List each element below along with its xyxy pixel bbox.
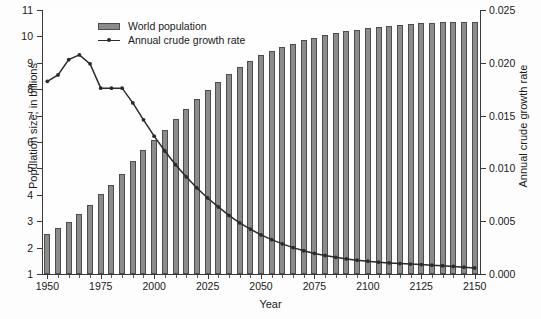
bar-2050 [258,55,264,274]
y-tick-right [481,274,486,275]
x-tick-minor [346,275,347,278]
y-tick-label-right: 0.010 [489,163,515,173]
x-tick-label: 2075 [294,281,334,292]
bar-swatch-icon [98,23,120,30]
growth-rate-point-1950 [45,79,49,83]
bar-1995 [140,150,146,274]
bar-1970 [87,205,93,274]
bar-2060 [279,47,285,274]
bar-2100 [365,28,371,274]
bar-2085 [333,33,339,274]
x-tick-minor [229,275,230,278]
bar-2125 [418,23,424,274]
x-tick-minor [122,275,123,278]
bar-2015 [183,109,189,274]
x-tick-major [47,275,48,279]
y-tick-label-right: 0.025 [489,5,515,15]
bar-2070 [301,40,307,274]
chart-figure: 1234567891011 0.0000.0050.0100.0150.0200… [0,0,541,319]
y-tick-right [481,63,486,64]
bar-2065 [290,44,296,274]
y-tick-label-right: 0.005 [489,216,515,226]
line-marker-icon [98,36,120,45]
bar-2130 [429,23,435,274]
bar-1985 [119,174,125,274]
x-tick-label: 2150 [455,281,495,292]
y-tick-right [481,116,486,117]
y-tick-label-right: 0.020 [489,58,515,68]
bar-2140 [450,22,456,274]
growth-rate-point-1990 [131,101,135,105]
x-tick-major [154,275,155,279]
x-tick-label: 2125 [401,281,441,292]
growth-rate-point-1980 [110,86,114,90]
x-tick-label: 1975 [81,281,121,292]
x-tick-minor [240,275,241,278]
bar-2040 [237,67,243,274]
x-tick-label: 2025 [188,281,228,292]
y-tick-right [481,10,486,11]
x-tick-minor [69,275,70,278]
y-tick-left [37,274,42,275]
y-tick-label-right: 0.015 [489,111,515,121]
bar-2020 [194,99,200,274]
x-tick-minor [443,275,444,278]
bar-2010 [173,119,179,274]
x-tick-minor [282,275,283,278]
bar-2120 [408,24,414,274]
x-tick-major [475,275,476,279]
x-tick-minor [218,275,219,278]
bar-2135 [440,22,446,274]
x-tick-minor [432,275,433,278]
y-tick-label-left: 11 [0,5,33,15]
growth-rate-point-1975 [99,86,103,90]
x-tick-minor [325,275,326,278]
bar-2150 [472,22,478,274]
bar-2025 [205,90,211,274]
x-tick-minor [165,275,166,278]
x-axis-title: Year [0,298,541,310]
y-axis-right-line [480,10,481,275]
bar-2045 [247,61,253,274]
x-tick-minor [143,275,144,278]
y-tick-label-right: 0.000 [489,269,515,279]
growth-rate-point-1960 [67,58,71,62]
x-tick-minor [379,275,380,278]
x-tick-minor [90,275,91,278]
x-tick-minor [304,275,305,278]
bar-2000 [151,140,157,274]
growth-rate-point-1985 [120,86,124,90]
legend-label: World population [128,19,207,33]
legend-item-annual-crude-growth-rate: Annual crude growth rate [98,33,245,47]
x-tick-label: 2100 [348,281,388,292]
legend-item-world-population: World population [98,19,245,33]
x-tick-minor [197,275,198,278]
x-tick-minor [453,275,454,278]
x-tick-minor [58,275,59,278]
bar-2110 [386,26,392,274]
bar-2095 [354,30,360,274]
x-tick-major [101,275,102,279]
y-tick-right [481,168,486,169]
y-axis-right-title: Annual crude growth rate [517,31,529,221]
bar-1960 [66,222,72,274]
x-tick-minor [111,275,112,278]
x-tick-label: 2050 [241,281,281,292]
bar-2055 [269,51,275,274]
bar-1950 [44,234,50,274]
bar-1955 [55,228,61,274]
bar-2090 [343,31,349,274]
bar-1965 [76,214,82,274]
bar-2035 [226,74,232,274]
x-tick-minor [464,275,465,278]
growth-rate-point-1995 [142,118,146,122]
growth-rate-point-2000 [152,134,156,138]
x-tick-minor [400,275,401,278]
bar-2145 [461,22,467,274]
x-tick-major [208,275,209,279]
x-tick-minor [176,275,177,278]
x-tick-label: 1950 [27,281,67,292]
x-tick-major [421,275,422,279]
bar-1990 [130,161,136,274]
x-tick-minor [133,275,134,278]
